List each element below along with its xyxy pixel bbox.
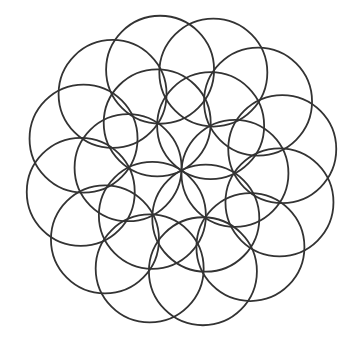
background [0,0,354,341]
circle-rosette-diagram [0,0,354,341]
